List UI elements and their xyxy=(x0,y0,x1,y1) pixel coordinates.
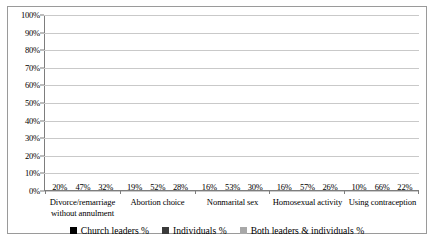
bar-set: 16%53%30% xyxy=(204,15,259,190)
legend-swatch-icon xyxy=(162,227,169,234)
legend-item[interactable]: Individuals % xyxy=(162,225,227,236)
y-axis-tick-mark xyxy=(40,15,44,16)
x-axis-category-label: Homosexual activity xyxy=(270,197,345,218)
bar-groups: 20%47%32%19%52%28%16%53%30%16%57%26%10%6… xyxy=(45,15,419,190)
y-axis-tick-mark xyxy=(40,173,44,174)
bar-value-label: 28% xyxy=(173,182,188,192)
bar-group: 20%47%32% xyxy=(45,15,120,190)
bar-value-label: 20% xyxy=(52,182,67,192)
legend-item[interactable]: Both leaders & individuals % xyxy=(240,225,365,236)
bar-value-label: 30% xyxy=(248,182,263,192)
bar-value-label: 53% xyxy=(225,182,240,192)
y-axis-tick-mark xyxy=(40,191,44,192)
bar-set: 20%47%32% xyxy=(55,15,110,190)
y-axis-tick-mark xyxy=(40,155,44,156)
bar-value-label: 52% xyxy=(150,182,165,192)
bar-set: 16%57%26% xyxy=(279,15,334,190)
legend-label: Individuals % xyxy=(173,225,227,236)
category-tick-mark xyxy=(45,190,46,194)
y-axis-tick-mark xyxy=(40,50,44,51)
legend-label: Church leaders % xyxy=(81,225,149,236)
x-axis-category-label: Nonmarital sex xyxy=(195,197,270,218)
bar-set: 19%52%28% xyxy=(130,15,185,190)
chart-legend: Church leaders %Individuals %Both leader… xyxy=(8,225,426,236)
category-tick-mark xyxy=(344,190,345,194)
x-axis-category-labels: Divorce/remarriage without annulmentAbor… xyxy=(45,197,420,218)
bar-set: 10%66%22% xyxy=(354,15,409,190)
bar-value-label: 47% xyxy=(75,182,90,192)
bar-value-label: 16% xyxy=(277,182,292,192)
bar-value-label: 19% xyxy=(127,182,142,192)
bar-value-label: 26% xyxy=(323,182,338,192)
y-axis-tick-mark xyxy=(40,67,44,68)
y-axis-tick-mark xyxy=(40,120,44,121)
category-tick-mark xyxy=(269,190,270,194)
bar-group: 19%52%28% xyxy=(120,15,195,190)
bar-group: 10%66%22% xyxy=(344,15,419,190)
category-tick-mark xyxy=(195,190,196,194)
legend-swatch-icon xyxy=(240,227,247,234)
y-axis-tick-mark xyxy=(40,32,44,33)
bar-value-label: 66% xyxy=(375,182,390,192)
x-axis-category-label: Using contraception xyxy=(345,197,420,218)
legend-label: Both leaders & individuals % xyxy=(251,225,365,236)
y-axis-tick-mark xyxy=(40,138,44,139)
plot-area: 100%90%80%70%60%50%40%30%20%10%0% 20%47%… xyxy=(44,15,419,191)
legend-item[interactable]: Church leaders % xyxy=(70,225,149,236)
bar-value-label: 57% xyxy=(300,182,315,192)
legend-swatch-icon xyxy=(70,227,77,234)
x-axis-category-label: Abortion choice xyxy=(120,197,195,218)
chart-frame: 100%90%80%70%60%50%40%30%20%10%0% 20%47%… xyxy=(7,6,427,234)
bar-group: 16%53%30% xyxy=(195,15,270,190)
bar-value-label: 10% xyxy=(351,182,366,192)
bar-value-label: 32% xyxy=(98,182,113,192)
category-tick-mark xyxy=(120,190,121,194)
bar-value-label: 22% xyxy=(397,182,412,192)
x-axis-category-label: Divorce/remarriage without annulment xyxy=(45,197,120,218)
y-axis-tick-mark xyxy=(40,103,44,104)
category-tick-mark xyxy=(418,190,419,194)
y-axis-tick-mark xyxy=(40,85,44,86)
bar-value-label: 16% xyxy=(202,182,217,192)
bar-group: 16%57%26% xyxy=(269,15,344,190)
